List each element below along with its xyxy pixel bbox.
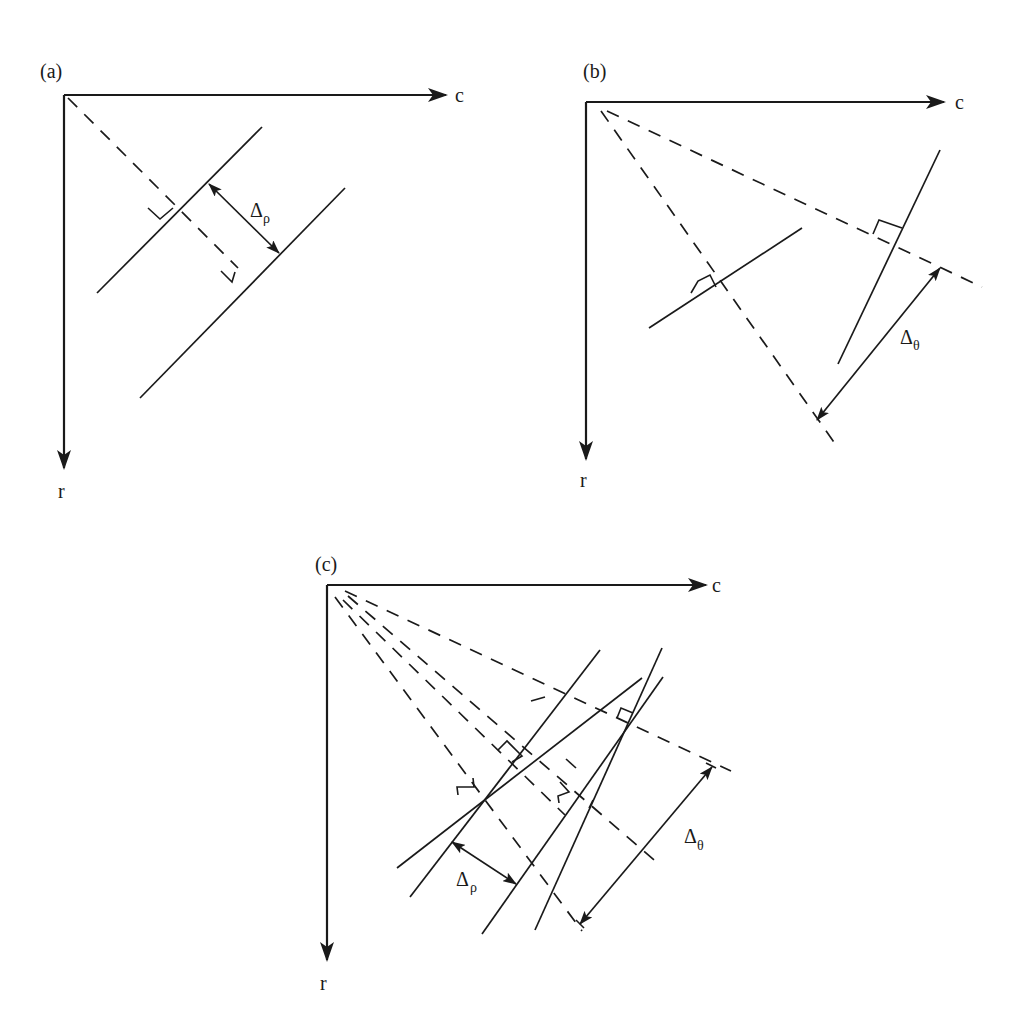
right-angle-mark [498,741,522,762]
tick-mark [531,697,545,701]
panel-b: (b) c r Δ θ [580,60,982,491]
line-1 [410,650,600,897]
line-3 [482,677,663,934]
panel-b-label: (b) [583,60,606,83]
panel-a-label: (a) [40,60,62,83]
right-angle-mark [873,220,902,234]
panel-a: (a) c r Δ ρ [40,60,464,502]
line-1 [649,228,802,328]
delta-rho-subscript: ρ [263,211,270,226]
c-axis-label: c [712,574,721,596]
c-axis-label: c [955,91,964,113]
panel-c: (c) c r Δ ρ Δ θ [315,553,731,994]
right-angle-mark [148,208,173,219]
delta-theta-symbol: Δ [900,326,913,348]
normal-dashed-line-4 [345,591,731,771]
r-axis-label: r [58,480,65,502]
normal-dashed-line-2 [343,600,565,815]
delta-theta-subscript: θ [697,838,704,853]
delta-rho-subscript: ρ [470,880,477,895]
panel-c-label: (c) [315,553,337,576]
line-4 [535,648,662,930]
delta-theta-symbol: Δ [684,825,697,847]
hough-parameter-diagram: (a) c r Δ ρ (b) c r [0,0,1027,1024]
r-axis-label: r [320,972,327,994]
right-angle-mark [558,782,569,803]
normal-dashed-line-1 [601,111,836,445]
tick-mark [566,759,576,768]
delta-rho-symbol: Δ [250,199,263,221]
right-angle-mark [691,275,716,293]
delta-theta-subscript: θ [913,338,920,353]
right-angle-mark [221,271,235,282]
c-axis-label: c [455,84,464,106]
normal-dashed-line-2 [607,111,982,287]
right-angle-mark [457,778,474,795]
normal-dashed-line [68,98,238,268]
delta-rho-symbol: Δ [456,868,469,890]
r-axis-label: r [580,469,587,491]
delta-theta-arrow [817,268,940,420]
